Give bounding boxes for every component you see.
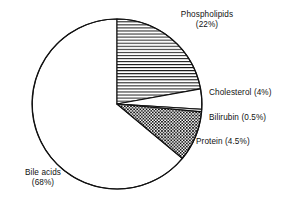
pie-label-bile-acids-value: (68%) <box>6 178 80 188</box>
pie-slices <box>32 19 202 189</box>
pie-label-protein: Protein (4.5%) <box>196 137 250 147</box>
pie-label-phospholipids-name: Phospholipids <box>164 10 250 20</box>
pie-label-bilirubin: Bilirubin (0.5%) <box>209 113 266 123</box>
pie-label-phospholipids-value: (22%) <box>164 20 250 30</box>
pie-label-bile-acids-name: Bile acids <box>6 168 80 178</box>
pie-label-phospholipids: Phospholipids (22%) <box>164 10 250 30</box>
pie-label-cholesterol-text: Cholesterol (4%) <box>209 88 272 98</box>
pie-chart-figure: Phospholipids (22%) Cholesterol (4%) Bil… <box>0 0 300 206</box>
pie-label-protein-text: Protein (4.5%) <box>196 137 250 147</box>
pie-label-cholesterol: Cholesterol (4%) <box>209 88 272 98</box>
pie-label-bilirubin-text: Bilirubin (0.5%) <box>209 113 266 123</box>
pie-label-bile-acids: Bile acids (68%) <box>6 168 80 188</box>
